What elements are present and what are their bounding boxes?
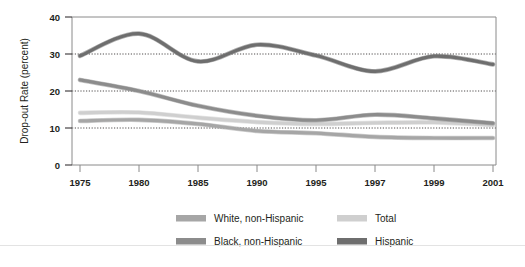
xtick-label-1995: 1995 [305,177,327,188]
dropout-rate-line-chart: 40 30 20 10 0 Drop-out Rate (percent) 19… [0,0,525,267]
x-axis-tick-labels: 1975 1980 1985 1990 1995 1997 1999 2001 [69,177,504,188]
xtick-label-1997: 1997 [364,177,385,188]
ytick-label-30: 30 [49,49,60,60]
ytick-label-0: 0 [55,160,60,171]
y-axis-tick-labels: 40 30 20 10 0 [49,12,60,171]
legend-swatch [337,215,367,222]
xtick-label-2001: 2001 [482,177,504,188]
y-axis-ticks [65,17,72,165]
legend-label: Total [375,213,396,224]
legend-swatch [176,215,206,222]
xtick-label-1985: 1985 [187,177,209,188]
legend-swatch [176,238,206,245]
xtick-label-1975: 1975 [69,177,91,188]
ytick-label-20: 20 [49,86,60,97]
x-axis-ticks [80,165,493,172]
ytick-label-10: 10 [49,123,60,134]
xtick-label-1990: 1990 [246,177,267,188]
xtick-label-1980: 1980 [128,177,149,188]
chart-legend: White, non-HispanicTotalBlack, non-Hispa… [176,213,413,247]
xtick-label-1999: 1999 [423,177,444,188]
legend-item: White, non-Hispanic [176,213,303,224]
chart-figure: 40 30 20 10 0 Drop-out Rate (percent) 19… [0,0,525,267]
ytick-label-40: 40 [49,12,60,23]
legend-swatch [337,238,367,245]
legend-item: Total [337,213,396,224]
legend-label: White, non-Hispanic [214,213,303,224]
y-axis-title: Drop-out Rate (percent) [19,38,30,144]
